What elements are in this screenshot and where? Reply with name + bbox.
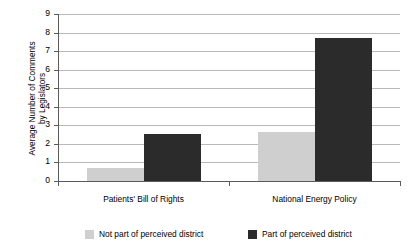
legend-item[interactable]: Not part of perceived district (85, 228, 203, 240)
y-axis-tick-label: 3 (32, 120, 50, 129)
x-axis-category-label: National Energy Policy (229, 194, 400, 204)
y-axis-tick-label: 8 (32, 28, 50, 37)
legend-swatch-icon (248, 230, 257, 239)
y-axis-tick-label: 6 (32, 65, 50, 74)
x-axis-tick (58, 181, 59, 186)
bar-chart: Average Number of Comments by Legislator… (0, 0, 413, 249)
bar (87, 168, 144, 181)
legend-item[interactable]: Part of perceived district (248, 228, 352, 240)
legend-label: Part of perceived district (262, 230, 352, 239)
y-axis-tick-label: 0 (32, 176, 50, 185)
bar (258, 132, 315, 181)
y-axis-tick-label: 1 (32, 157, 50, 166)
bar-series-group (58, 14, 400, 181)
y-axis-tick-label: 5 (32, 83, 50, 92)
y-axis-tick-label: 2 (32, 139, 50, 148)
legend-swatch-icon (85, 230, 94, 239)
x-axis-category-label: Patients' Bill of Rights (58, 194, 229, 204)
bar (144, 134, 201, 181)
x-axis-tick (400, 181, 401, 186)
x-axis-tick (229, 181, 230, 186)
y-axis-tick-label: 7 (32, 46, 50, 55)
legend-label: Not part of perceived district (99, 230, 203, 239)
y-axis-tick-label: 4 (32, 102, 50, 111)
y-axis-tick-label: 9 (32, 9, 50, 18)
chart-legend: Not part of perceived districtPart of pe… (0, 228, 413, 244)
bar (315, 38, 372, 181)
